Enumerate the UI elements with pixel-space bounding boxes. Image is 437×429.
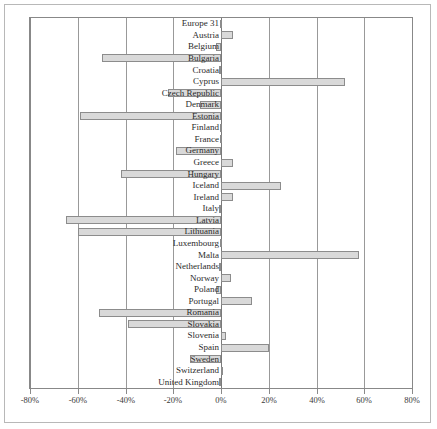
bar-row[interactable] [30,111,412,123]
bar[interactable] [221,344,269,352]
bar-row[interactable] [30,157,412,169]
gridline-80 [412,18,413,388]
x-tick-label: 80% [404,395,420,405]
bar-row[interactable] [30,122,412,134]
bar[interactable] [190,355,221,363]
x-tick-20 [269,389,270,394]
bar-row[interactable] [30,226,412,238]
x-tick-label: -80% [21,395,39,405]
x-tick-40 [317,389,318,394]
x-tick-label: 40% [309,395,325,405]
chart-frame: Europe 31AustriaBelgiumBulgariaCroatiaCy… [4,4,431,423]
x-tick-label: 0% [215,395,226,405]
x-tick-60 [364,389,365,394]
bar[interactable] [221,332,226,340]
x-tick-label: -40% [117,395,135,405]
bar-row[interactable] [30,168,412,180]
bar-row[interactable] [30,307,412,319]
bar[interactable] [221,274,231,282]
bar-row[interactable] [30,296,412,308]
bar[interactable] [220,239,222,247]
bar-row[interactable] [30,319,412,331]
bar-row[interactable] [30,376,412,388]
bar[interactable] [219,205,221,213]
bar-row[interactable] [30,64,412,76]
bar[interactable] [80,112,221,120]
bar-row[interactable] [30,53,412,65]
x-tick--20 [173,389,174,394]
bar[interactable] [121,170,221,178]
x-tick--80 [30,389,31,394]
bar-row[interactable] [30,18,412,30]
bar-row[interactable] [30,30,412,42]
bar-row[interactable] [30,99,412,111]
bar-row[interactable] [30,191,412,203]
bar[interactable] [221,251,359,259]
x-tick-label: -20% [164,395,182,405]
bar-row[interactable] [30,272,412,284]
bar[interactable] [221,367,223,375]
bar[interactable] [221,78,345,86]
bar-row[interactable] [30,330,412,342]
bar-row[interactable] [30,180,412,192]
bar[interactable] [168,89,221,97]
bar[interactable] [221,297,252,305]
x-tick-80 [412,389,413,394]
bar[interactable] [221,182,281,190]
bar[interactable] [216,286,221,294]
x-tick-label: 60% [356,395,372,405]
bar[interactable] [128,320,221,328]
bar[interactable] [220,124,222,132]
bar[interactable] [219,263,221,271]
x-tick-label: 20% [261,395,277,405]
bar-row[interactable] [30,203,412,215]
bar[interactable] [176,147,221,155]
bar[interactable] [102,54,221,62]
bar-row[interactable] [30,353,412,365]
plot-area: Europe 31AustriaBelgiumBulgariaCroatiaCy… [29,17,413,389]
bar[interactable] [219,378,221,386]
bar-row[interactable] [30,145,412,157]
bar-row[interactable] [30,87,412,99]
x-tick--60 [78,389,79,394]
bar-row[interactable] [30,365,412,377]
bar-row[interactable] [30,134,412,146]
bar-row[interactable] [30,261,412,273]
bar-row[interactable] [30,215,412,227]
bar[interactable] [78,228,221,236]
bar[interactable] [219,66,221,74]
x-tick--40 [126,389,127,394]
bar[interactable] [99,309,221,317]
x-tick-label: -60% [69,395,87,405]
bar[interactable] [66,216,221,224]
bar[interactable] [221,31,233,39]
bar-row[interactable] [30,249,412,261]
bar-row[interactable] [30,342,412,354]
bar[interactable] [221,193,233,201]
bar[interactable] [221,159,233,167]
bar[interactable] [216,43,221,51]
bar[interactable] [200,101,221,109]
x-tick-0 [221,389,222,394]
x-axis: -80%-60%-40%-20%0%20%40%60%80% [29,389,413,417]
bar-row[interactable] [30,41,412,53]
bar[interactable] [220,135,222,143]
bar[interactable] [220,20,222,28]
bar-row[interactable] [30,76,412,88]
bar-row[interactable] [30,238,412,250]
bar-row[interactable] [30,284,412,296]
